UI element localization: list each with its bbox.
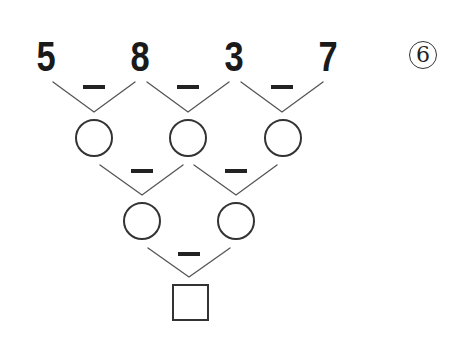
minus-sign-icon	[177, 85, 199, 89]
answer-circle-2-3	[265, 120, 301, 156]
minus-sign-icon	[131, 169, 153, 173]
minus-sign-icon	[271, 85, 293, 89]
answer-circle-2-2	[170, 120, 206, 156]
minus-sign-icon	[83, 85, 105, 89]
answer-circle-3-2	[218, 203, 254, 239]
answer-square	[173, 285, 208, 320]
minus-sign-icon	[225, 169, 247, 173]
minus-sign-icon	[178, 252, 200, 256]
subtraction-pyramid: 5 8 3 7 6	[0, 0, 457, 354]
answer-circle-3-1	[124, 203, 160, 239]
pyramid-lines	[0, 0, 457, 354]
answer-circle-2-1	[76, 120, 112, 156]
